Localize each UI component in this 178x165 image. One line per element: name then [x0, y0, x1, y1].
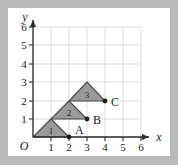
y-tick-label-3: 3 — [21, 76, 27, 88]
coordinate-graph: 1 2 3 4 5 6 1 2 3 4 5 6 O x y 1 2 3 A B — [8, 8, 170, 156]
triangle-2-label: 2 — [67, 108, 72, 118]
point-b-label: B — [93, 113, 101, 127]
point-c-label: C — [111, 95, 119, 109]
x-tick-label-6: 6 — [138, 141, 144, 153]
x-tick-label-2: 2 — [66, 141, 72, 153]
triangle-3-label: 3 — [85, 90, 90, 100]
point-b — [85, 117, 90, 122]
x-tick-label-3: 3 — [84, 141, 90, 153]
y-tick-label-1: 1 — [21, 113, 27, 125]
triangle-1-label: 1 — [49, 126, 54, 136]
plot-area: 1 2 3 4 5 6 1 2 3 4 5 6 O x y 1 2 3 A B — [8, 8, 170, 156]
point-a — [67, 135, 72, 140]
y-tick-label-5: 5 — [21, 39, 27, 51]
point-a-label: A — [75, 123, 84, 137]
y-tick-label-2: 2 — [21, 95, 27, 107]
x-axis-label: x — [155, 130, 162, 144]
origin-label: O — [20, 139, 29, 153]
x-tick-label-1: 1 — [48, 141, 54, 153]
x-tick-label-4: 4 — [102, 141, 108, 153]
point-c — [103, 99, 108, 104]
figure-canvas: 1 2 3 4 5 6 1 2 3 4 5 6 O x y 1 2 3 A B — [0, 0, 178, 165]
y-axis-label: y — [21, 10, 28, 24]
x-tick-label-5: 5 — [120, 141, 126, 153]
y-tick-label-4: 4 — [21, 58, 27, 70]
